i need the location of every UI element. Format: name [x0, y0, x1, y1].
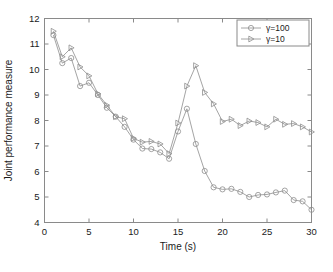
x-tick-label: 10 [128, 226, 139, 237]
legend-label: γ=100 [266, 23, 290, 33]
y-axis-label: Joint performance measure [3, 59, 14, 181]
x-axis-label: Time (s) [160, 241, 196, 252]
y-tick-label: 7 [34, 140, 39, 151]
y-tick-label: 5 [34, 191, 39, 202]
y-tick-label: 11 [30, 38, 40, 49]
joint-performance-line-chart: 051015202530 456789101112 Time (s) Joint… [0, 0, 333, 272]
y-tick-label: 4 [34, 217, 39, 228]
y-tick-label: 9 [34, 89, 39, 100]
x-tick-label: 30 [306, 226, 317, 237]
y-tick-label: 6 [34, 166, 39, 177]
y-tick-label: 12 [29, 13, 40, 24]
x-tick-label: 0 [42, 226, 47, 237]
chart-figure: 051015202530 456789101112 Time (s) Joint… [0, 0, 333, 272]
x-tick-label: 25 [262, 226, 273, 237]
y-tick-label: 8 [34, 115, 39, 126]
chart-legend: γ=100γ=10 [237, 20, 309, 46]
x-tick-label: 5 [86, 226, 91, 237]
y-tick-label: 10 [29, 64, 40, 75]
x-tick-label: 20 [217, 226, 228, 237]
x-tick-label: 15 [173, 226, 184, 237]
legend-label: γ=10 [266, 34, 285, 44]
